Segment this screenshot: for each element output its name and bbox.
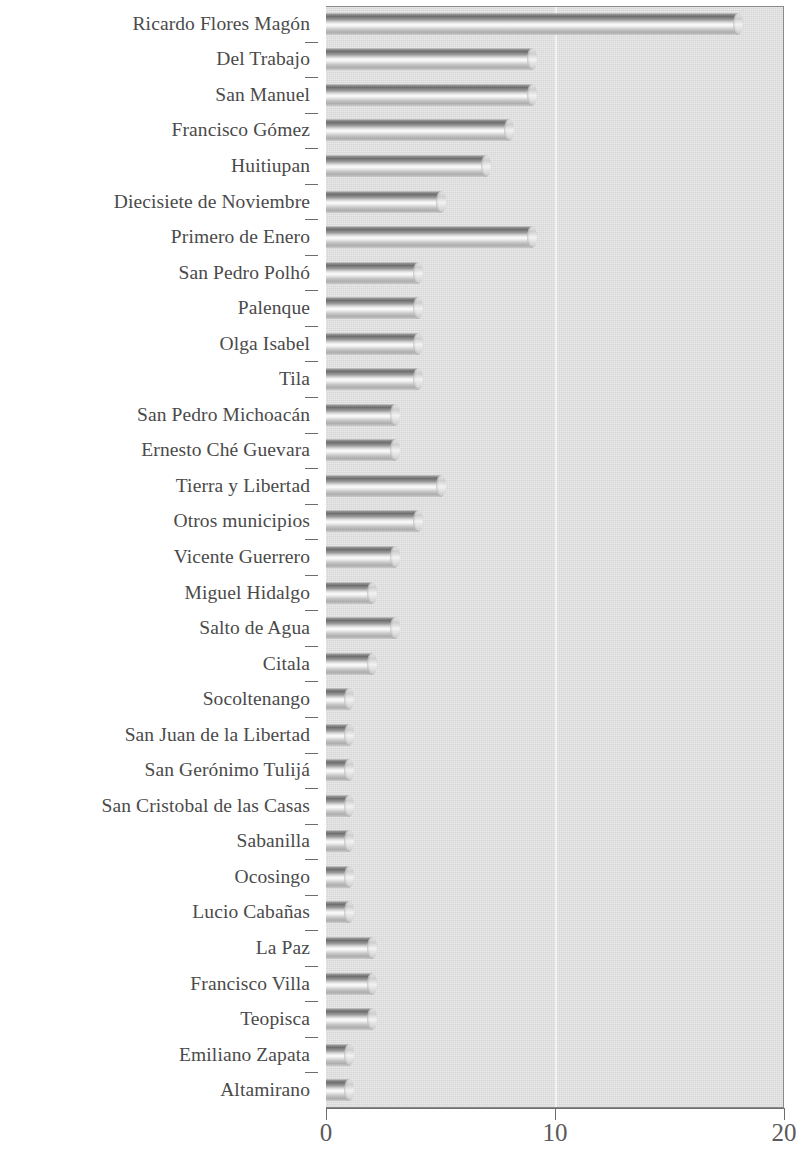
bar-end-cap xyxy=(344,688,354,710)
bar-end-cap xyxy=(367,582,377,604)
bar xyxy=(326,866,349,888)
category-label: Del Trabajo xyxy=(0,49,318,69)
category-label: Citala xyxy=(0,654,318,674)
bar xyxy=(326,155,486,177)
x-axis-tick-label: 0 xyxy=(320,1120,333,1145)
bar-end-cap xyxy=(527,48,537,70)
bar-end-cap xyxy=(390,439,400,461)
plot-area xyxy=(326,6,784,1108)
bar-end-cap xyxy=(527,226,537,248)
category-label: San Pedro Polhó xyxy=(0,263,318,283)
bar xyxy=(326,404,395,426)
bar-end-cap xyxy=(390,617,400,639)
category-label: Otros municipios xyxy=(0,511,318,531)
bar xyxy=(326,724,349,746)
bar-end-cap xyxy=(344,795,354,817)
bar xyxy=(326,546,395,568)
bar xyxy=(326,262,418,284)
bar xyxy=(326,795,349,817)
bar xyxy=(326,510,418,532)
bar xyxy=(326,688,349,710)
bar xyxy=(326,901,349,923)
bar-end-cap xyxy=(344,830,354,852)
category-label: Altamirano xyxy=(0,1080,318,1100)
bar xyxy=(326,226,532,248)
category-label: Salto de Agua xyxy=(0,618,318,638)
category-label: Ocosingo xyxy=(0,867,318,887)
gridline-10 xyxy=(555,6,557,1108)
bar-end-cap xyxy=(733,13,743,35)
bar xyxy=(326,830,349,852)
bar xyxy=(326,653,372,675)
category-label: San Juan de la Libertad xyxy=(0,725,318,745)
bar-end-cap xyxy=(504,119,514,141)
bar-end-cap xyxy=(344,1079,354,1101)
y-axis-tick xyxy=(305,717,318,718)
y-axis-tick xyxy=(305,433,318,434)
category-label: Miguel Hidalgo xyxy=(0,583,318,603)
y-axis-tick xyxy=(305,1037,318,1038)
y-axis-tick xyxy=(305,326,318,327)
bar-end-cap xyxy=(481,155,491,177)
bar xyxy=(326,759,349,781)
category-label: Olga Isabel xyxy=(0,334,318,354)
category-label: Huitiupan xyxy=(0,156,318,176)
y-axis-tick xyxy=(305,930,318,931)
category-label: San Cristobal de las Casas xyxy=(0,796,318,816)
bar xyxy=(326,297,418,319)
bar xyxy=(326,937,372,959)
y-axis-tick xyxy=(305,397,318,398)
y-axis-tick xyxy=(305,824,318,825)
category-label: San Pedro Michoacán xyxy=(0,405,318,425)
y-axis-tick xyxy=(305,610,318,611)
category-label: Teopisca xyxy=(0,1009,318,1029)
y-axis-tick xyxy=(305,966,318,967)
bar xyxy=(326,13,738,35)
bar xyxy=(326,1044,349,1066)
category-label: Sabanilla xyxy=(0,831,318,851)
y-axis-tick xyxy=(305,788,318,789)
bar-end-cap xyxy=(367,973,377,995)
bar-end-cap xyxy=(436,475,446,497)
bar-end-cap xyxy=(367,1008,377,1030)
bar-end-cap xyxy=(413,333,423,355)
bar xyxy=(326,333,418,355)
y-axis-tick xyxy=(305,539,318,540)
bar-end-cap xyxy=(344,1044,354,1066)
category-label: Ricardo Flores Magón xyxy=(0,14,318,34)
bar xyxy=(326,48,532,70)
bar-end-cap xyxy=(413,297,423,319)
bar-end-cap xyxy=(413,368,423,390)
bar xyxy=(326,973,372,995)
bar xyxy=(326,1079,349,1101)
y-axis-tick xyxy=(305,468,318,469)
bar xyxy=(326,84,532,106)
bar xyxy=(326,617,395,639)
y-axis-tick xyxy=(305,859,318,860)
y-axis-tick xyxy=(305,113,318,114)
category-label: La Paz xyxy=(0,938,318,958)
category-label: Lucio Cabañas xyxy=(0,902,318,922)
category-label: Palenque xyxy=(0,298,318,318)
category-label: Socoltenango xyxy=(0,689,318,709)
y-axis-tick xyxy=(305,148,318,149)
category-label: Emiliano Zapata xyxy=(0,1045,318,1065)
category-label: Tila xyxy=(0,369,318,389)
category-label: Francisco Villa xyxy=(0,974,318,994)
bar-end-cap xyxy=(367,653,377,675)
y-axis-tick xyxy=(305,42,318,43)
category-label: Diecisiete de Noviembre xyxy=(0,192,318,212)
bar xyxy=(326,368,418,390)
y-axis-tick xyxy=(305,646,318,647)
y-axis-tick xyxy=(305,753,318,754)
bar-end-cap xyxy=(344,724,354,746)
category-axis-labels: Ricardo Flores MagónDel TrabajoSan Manue… xyxy=(0,6,318,1108)
bar-end-cap xyxy=(367,937,377,959)
bar-end-cap xyxy=(413,262,423,284)
bar xyxy=(326,191,441,213)
bar xyxy=(326,1008,372,1030)
bar xyxy=(326,475,441,497)
y-axis-tick xyxy=(305,575,318,576)
x-axis-tick-label: 10 xyxy=(543,1120,568,1145)
y-axis-tick xyxy=(305,504,318,505)
